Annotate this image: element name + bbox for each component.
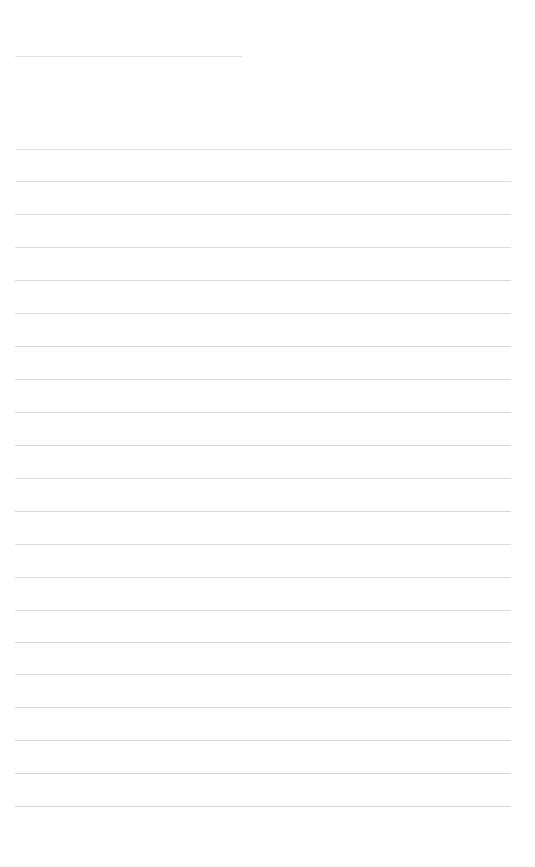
ruled-line: [15, 740, 511, 741]
ruled-line: [15, 773, 511, 774]
ruled-line: [15, 346, 511, 347]
ruled-line: [15, 707, 511, 708]
ruled-line: [15, 412, 511, 413]
ruled-line: [15, 610, 511, 611]
ruled-line: [15, 247, 511, 248]
ruled-line: [15, 280, 511, 281]
ruled-line: [15, 181, 511, 182]
ruled-line: [15, 445, 511, 446]
ruled-line: [15, 149, 511, 150]
writing-area[interactable]: [0, 0, 535, 867]
ruled-line: [15, 313, 511, 314]
ruled-line: [15, 642, 511, 643]
header-rule-line: [15, 56, 242, 57]
ruled-line: [15, 544, 511, 545]
bottom-margin: [0, 807, 535, 867]
document-page: [0, 0, 535, 867]
ruled-line: [15, 674, 511, 675]
ruled-line: [15, 379, 511, 380]
ruled-line: [15, 214, 511, 215]
ruled-line: [15, 478, 511, 479]
ruled-line: [15, 577, 511, 578]
ruled-line: [15, 511, 511, 512]
